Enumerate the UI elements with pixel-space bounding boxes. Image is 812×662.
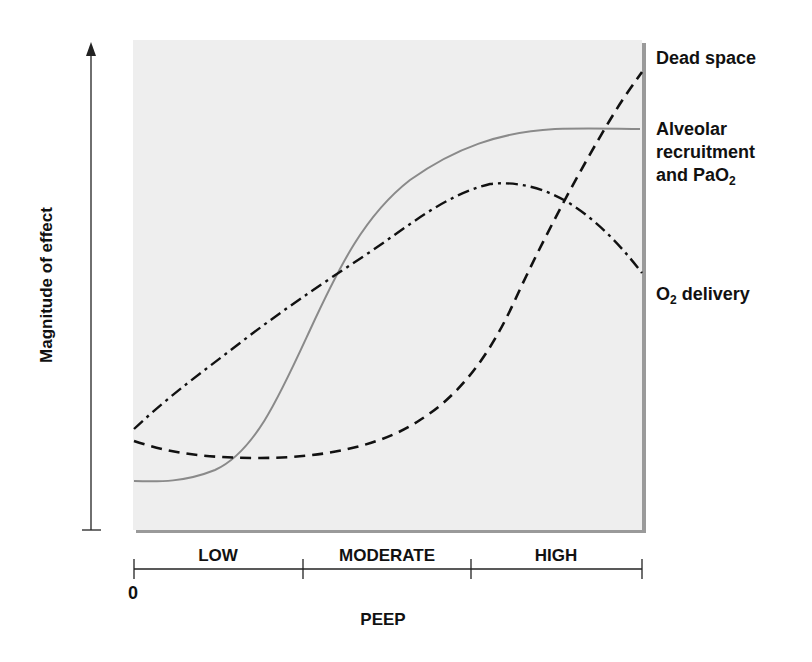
legend-alveolar-line-1: Alveolar [656, 118, 755, 141]
y-axis-label: Magnitude of effect [37, 207, 57, 363]
legend-o2-text-suffix: delivery [677, 284, 750, 304]
legend-o2-text: O [656, 284, 670, 304]
legend-alveolar-line-2: recruitment [656, 141, 755, 164]
y-axis [82, 42, 101, 530]
legend-alveolar-recruitment: Alveolar recruitment and PaO2 [656, 118, 755, 187]
x-origin-label: 0 [128, 583, 138, 604]
x-category-low: LOW [198, 546, 238, 566]
x-axis-label: PEEP [360, 610, 405, 630]
legend-dead-space: Dead space [656, 47, 756, 70]
legend-alveolar-text: and PaO [656, 165, 729, 185]
x-category-moderate: MODERATE [339, 546, 435, 566]
legend-alveolar-subscript: 2 [729, 174, 736, 188]
y-axis-arrowhead-icon [86, 42, 96, 56]
chart-figure: Magnitude of effect Dead space Alveolar … [0, 0, 812, 662]
legend-o2-subscript: 2 [670, 293, 677, 307]
x-category-high: HIGH [535, 546, 578, 566]
legend-alveolar-line-3: and PaO2 [656, 164, 755, 187]
legend-o2-delivery: O2 delivery [656, 283, 750, 306]
